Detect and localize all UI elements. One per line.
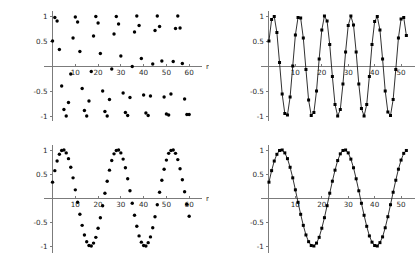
data-point-marker: [371, 241, 374, 244]
data-point-marker: [341, 83, 344, 86]
data-point-marker: [183, 190, 186, 193]
data-point-marker: [128, 96, 131, 99]
data-point-marker: [149, 94, 152, 97]
data-point-marker: [187, 215, 190, 218]
data-point-marker: [58, 48, 61, 51]
data-point-marker: [62, 148, 65, 151]
data-point-marker: [360, 202, 363, 205]
data-point-marker: [315, 90, 318, 93]
data-point-marker: [267, 181, 270, 184]
data-point-marker: [397, 168, 400, 171]
data-point-marker: [365, 103, 368, 106]
data-point-marker: [174, 27, 177, 30]
data-point-marker: [294, 34, 297, 37]
x-tick-label: 30: [116, 68, 126, 77]
data-point-marker: [94, 236, 97, 239]
data-point-marker: [158, 25, 161, 28]
x-tick-label: 20: [94, 68, 104, 77]
data-point-marker: [307, 99, 310, 102]
data-point-marker: [153, 29, 156, 32]
data-point-marker: [304, 233, 307, 236]
y-tick-label: -0.5: [250, 218, 264, 227]
data-point-marker: [121, 157, 124, 160]
data-point-marker: [286, 114, 289, 117]
data-point-marker: [283, 151, 286, 154]
data-point-marker: [96, 227, 99, 230]
data-point-marker: [158, 191, 161, 194]
data-point-marker: [334, 103, 337, 106]
data-point-marker: [92, 34, 95, 37]
data-point-marker: [119, 54, 122, 57]
y-tick-label: 0.5: [36, 170, 47, 179]
chart-panel-top-left: 10203040506010.5-0.5-1n: [0, 0, 209, 139]
data-point-marker: [90, 244, 93, 247]
data-point-marker: [156, 14, 159, 17]
data-point-marker: [273, 160, 276, 163]
data-point-marker: [146, 241, 149, 244]
data-point-marker: [172, 60, 175, 63]
data-point-marker: [334, 169, 337, 172]
chart-svg-top-right: 102030405010.5-0.5-1: [209, 0, 419, 139]
data-point-marker: [185, 203, 188, 206]
data-point-marker: [320, 29, 323, 32]
data-point-marker: [289, 166, 292, 169]
data-point-marker: [160, 179, 163, 182]
data-point-marker: [110, 159, 113, 162]
data-point-marker: [83, 109, 86, 112]
data-point-marker: [133, 30, 136, 33]
data-point-marker: [402, 16, 405, 19]
data-point-marker: [405, 34, 408, 37]
data-point-marker: [339, 108, 342, 111]
data-point-marker: [376, 15, 379, 18]
data-point-marker: [142, 93, 145, 96]
data-point-marker: [183, 97, 186, 100]
data-point-marker: [312, 111, 315, 114]
chart-svg-bottom-left: 10203040506010.5-0.5-1n: [0, 139, 209, 277]
data-point-marker: [101, 204, 104, 207]
data-point-marker: [299, 17, 302, 20]
data-point-marker: [378, 29, 381, 32]
data-point-marker: [286, 157, 289, 160]
data-point-marker: [320, 227, 323, 230]
data-point-marker: [137, 24, 140, 27]
data-point-marker: [76, 201, 79, 204]
data-point-marker: [60, 84, 63, 87]
data-point-marker: [344, 149, 347, 152]
data-point-marker: [357, 83, 360, 86]
data-point-marker: [297, 201, 300, 204]
data-point-marker: [291, 65, 294, 68]
data-point-marker: [178, 26, 181, 29]
data-point-marker: [149, 235, 152, 238]
data-point-marker: [55, 159, 58, 162]
data-point-marker: [281, 149, 284, 152]
data-point-marker: [355, 51, 358, 54]
data-point-marker: [78, 50, 81, 53]
data-point-marker: [349, 158, 352, 161]
data-point-marker: [78, 213, 81, 216]
data-point-marker: [307, 240, 310, 243]
data-point-marker: [310, 244, 313, 247]
data-point-marker: [108, 98, 111, 101]
data-point-marker: [106, 180, 109, 183]
y-tick-label: -1: [40, 112, 47, 121]
data-point-marker: [140, 57, 143, 60]
data-point-marker: [65, 151, 68, 154]
data-point-marker: [181, 178, 184, 181]
y-tick-label: 0.5: [36, 37, 47, 46]
data-point-marker: [128, 189, 131, 192]
data-point-marker: [283, 112, 286, 115]
data-point-marker: [363, 115, 366, 118]
y-tick-label: 1: [259, 12, 264, 21]
data-point-marker: [315, 242, 318, 245]
data-point-marker: [92, 241, 95, 244]
x-tick-label: 30: [344, 200, 354, 209]
data-point-marker: [365, 225, 368, 228]
y-tick-label: -0.5: [250, 87, 264, 96]
data-point-marker: [318, 58, 321, 61]
x-tick-label: 50: [162, 68, 172, 77]
data-point-marker: [53, 16, 56, 19]
data-point-marker: [384, 226, 387, 229]
data-point-marker: [373, 20, 376, 23]
data-point-marker: [294, 188, 297, 191]
data-point-marker: [101, 89, 104, 92]
